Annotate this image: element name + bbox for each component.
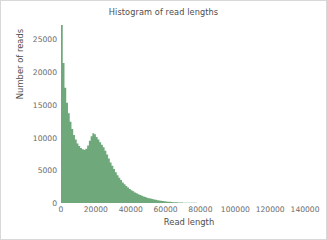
x-tick-label: 140000 <box>291 205 320 214</box>
x-tick-label: 40000 <box>119 205 143 214</box>
y-tick-label: 0 <box>11 199 57 208</box>
figure-container: Histogram of read lengths Number of read… <box>0 0 327 240</box>
y-tick-label: 10000 <box>11 133 57 142</box>
x-tick-label: 100000 <box>221 205 250 214</box>
y-tick-label: 25000 <box>11 35 57 44</box>
y-tick-label: 20000 <box>11 68 57 77</box>
x-tick-label: 60000 <box>154 205 178 214</box>
histogram-bars <box>61 25 307 203</box>
x-tick-label: 80000 <box>188 205 212 214</box>
x-axis-label: Read length <box>61 217 317 227</box>
x-tick-label: 0 <box>59 205 64 214</box>
chart-title: Histogram of read lengths <box>1 7 326 17</box>
y-tick-label: 5000 <box>11 166 57 175</box>
y-axis-ticks: 0500010000150002000025000 <box>9 23 57 203</box>
plot-area <box>61 23 319 203</box>
x-tick-label: 20000 <box>84 205 108 214</box>
y-tick-label: 15000 <box>11 100 57 109</box>
x-tick-label: 120000 <box>256 205 285 214</box>
histogram-svg <box>61 23 319 203</box>
